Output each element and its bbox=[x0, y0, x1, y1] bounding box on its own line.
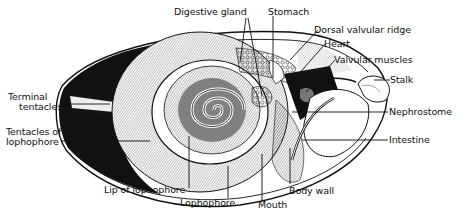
label-body-wall: Body wall bbox=[289, 186, 334, 196]
label-tentacles-of-lophophore-line2: lophophore bbox=[6, 137, 61, 147]
label-terminal-tentacles: Terminal tentacles bbox=[8, 92, 62, 112]
label-intestine: Intestine bbox=[389, 135, 430, 145]
label-digestive-gland: Digestive gland bbox=[174, 7, 247, 17]
label-stalk: Stalk bbox=[390, 75, 413, 85]
label-valvular-muscles: Valvular muscles bbox=[334, 55, 413, 65]
label-stomach: Stomach bbox=[268, 7, 309, 17]
label-mouth: Mouth bbox=[258, 200, 287, 210]
label-dorsal-valvular-ridge: Dorsal valvular ridge bbox=[314, 25, 411, 35]
label-lip-of-lophophore: Lip of lophophore bbox=[104, 185, 185, 195]
label-terminal-tentacles-line2: tentacles bbox=[8, 102, 62, 112]
label-tentacles-of-lophophore: Tentacles of lophophore bbox=[6, 127, 61, 147]
label-nephrostome: Nephrostome bbox=[389, 107, 452, 117]
label-heart: Heart bbox=[324, 39, 350, 49]
label-lophophore: Lophophore bbox=[180, 198, 235, 208]
